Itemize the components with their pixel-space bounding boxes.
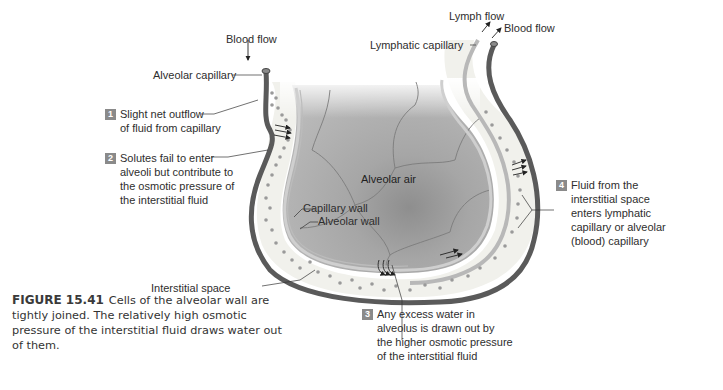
blood-flow-out-label: Blood flow (504, 22, 555, 36)
step-badge: 1 (105, 109, 116, 120)
blood-flow-in-label: Blood flow (226, 33, 277, 47)
figure-number: FIGURE 15.41 (12, 293, 104, 307)
alveolar-air-label: Alveolar air (361, 173, 416, 187)
capillary-opening-left (262, 69, 270, 74)
blood-flow-out-arrow (492, 28, 501, 38)
lymphatic-capillary-label: Lymphatic capillary (370, 39, 463, 53)
alveolar-capillary-label: Alveolar capillary (153, 69, 236, 83)
figure-caption: FIGURE 15.41Cells of the alveolar wall a… (12, 293, 282, 353)
step-1: 1Slight net outflow of fluid from capill… (105, 107, 221, 135)
step-2: 2Solutes fail to enter alveoli but contr… (105, 151, 234, 207)
step-badge: 2 (105, 153, 116, 164)
step-badge: 3 (362, 309, 373, 320)
step-badge: 4 (556, 180, 567, 191)
lymph-flow-label: Lymph flow (449, 10, 504, 24)
capillary-wall-label: Capillary wall (303, 202, 368, 216)
step-4: 4Fluid from the interstitial space enter… (556, 178, 666, 248)
alveolar-wall-label: Alveolar wall (318, 215, 380, 229)
lymph-flow-arrow (482, 22, 490, 32)
step-3: 3Any excess water in alveolus is drawn o… (362, 307, 513, 363)
capillary-opening-right (491, 42, 498, 47)
